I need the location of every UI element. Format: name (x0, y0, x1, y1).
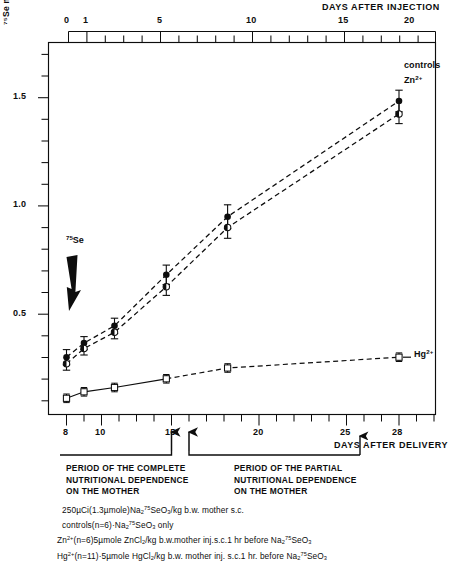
footnote-zn-b: (n=6)5µmole ZnCl (74, 535, 142, 545)
period-note-partial-line-1: PERIOD OF THE PARTIAL (234, 463, 357, 475)
footnote-hg-d-sub: 3 (324, 555, 327, 561)
series-label-controls: controls (404, 61, 440, 70)
footnote-hg-c: /kg b.w. mother inj. s.c.1 hr. before Na (154, 551, 297, 561)
footnote-dose-c: /kg b.w. mother s.c. (171, 505, 244, 515)
footnote-dose-a: 250µCi(1.3µmole)Na (62, 505, 141, 515)
top-tick-label-15: 15 (338, 16, 348, 25)
period-note-partial: PERIOD OF THE PARTIAL NUTRITIONAL DEPEND… (234, 463, 357, 498)
top-axis-ticks (69, 32, 436, 43)
y-axis-title-denominator: ⁷⁵Se mother (0, 0, 11, 28)
data-point (111, 384, 117, 390)
footnote-hg-a: Hg (57, 551, 68, 561)
bottom-tick-label-20: 20 (253, 428, 263, 437)
period-brackets (60, 436, 360, 455)
footnote-zn: Zn2+(n=6)5µmole ZnCl2/kg b.w.mother inj.… (57, 533, 312, 549)
footnote-dose-b: SeO (150, 505, 167, 515)
figure-root: 0 1 5 10 15 20 DAYS AFTER INJECTION 1.5 … (0, 0, 449, 571)
bottom-tick-label-28: 28 (392, 428, 402, 437)
bottom-tick-label-15: 15 (165, 428, 175, 437)
period-note-complete-line-2: NUTRITIONAL DEPENDENCE (66, 475, 189, 487)
series-label-hg2plus: Hg2+ (414, 350, 433, 359)
series-controls (63, 90, 403, 365)
footnote-hg-b: (n=11)·5µmole HgCl (74, 551, 150, 561)
footnote-controls-b: SeO (135, 520, 152, 530)
y-tick-label-0-5: 0.5 (13, 309, 26, 318)
footnote-controls-c: only (155, 520, 173, 530)
series-hg2plus (63, 353, 402, 403)
top-axis-title: DAYS AFTER INJECTION (322, 3, 440, 12)
period-note-partial-line-3: ON THE MOTHER (234, 486, 357, 498)
se-symbol: Se (73, 235, 84, 245)
footnote-controls-a: controls(n=6)·Na (62, 520, 126, 530)
footnote-zn-c: /kg b.w.mother inj.s.c.1 hr before Na (145, 535, 282, 545)
bottom-tick-label-8: 8 (63, 428, 68, 437)
y-tick-label-1-0: 1.0 (13, 200, 26, 209)
footnote-hg: Hg2+(n=11)·5µmole HgCl2/kg b.w. mother i… (57, 549, 327, 565)
top-tick-label-20: 20 (404, 16, 414, 25)
footnote-zn-d: SeO (291, 535, 308, 545)
footnote-zn-d-sub: 3 (308, 539, 311, 545)
bottom-tick-label-25: 25 (340, 428, 350, 437)
bottom-axis-ticks (67, 415, 435, 426)
series-zn2plus (63, 104, 403, 370)
footnote-controls: controls(n=6)·Na275SeO3 only (62, 518, 174, 534)
footnote-zn-a: Zn (57, 535, 67, 545)
data-point (81, 389, 87, 395)
top-tick-label-10: 10 (246, 16, 256, 25)
period-note-partial-line-2: NUTRITIONAL DEPENDENCE (234, 475, 357, 487)
series-label-zn2plus: Zn2+ (404, 76, 422, 85)
footnote-zn-a-sup: 2+ (67, 535, 74, 541)
data-point (396, 354, 402, 360)
y-tick-label-1-5: 1.5 (13, 92, 26, 101)
top-tick-label-1: 1 (83, 16, 88, 25)
top-tick-label-0: 0 (64, 16, 69, 25)
data-point (63, 395, 69, 401)
y-axis-title: ⁷⁵Se young ⁷⁵Se mother (0, 0, 11, 28)
data-point (396, 98, 403, 105)
se-injection-label: 75Se (66, 236, 84, 245)
footnote-dose: 250µCi(1.3µmole)Na275SeO3/kg b.w. mother… (62, 503, 244, 519)
period-note-complete-line-3: ON THE MOTHER (66, 486, 189, 498)
data-point (225, 365, 231, 371)
bottom-tick-label-10: 10 (95, 428, 105, 437)
data-point (163, 272, 170, 279)
y-axis-ticks (38, 54, 49, 400)
period-note-complete-line-1: PERIOD OF THE COMPLETE (66, 463, 189, 475)
se-injection-arrow (67, 255, 82, 311)
period-note-complete: PERIOD OF THE COMPLETE NUTRITIONAL DEPEN… (66, 463, 189, 498)
top-tick-label-5: 5 (157, 16, 162, 25)
data-point (163, 376, 169, 382)
bottom-axis-title: DAYS AFTER DELIVERY (334, 441, 448, 450)
footnote-hg-d: SeO (307, 551, 324, 561)
